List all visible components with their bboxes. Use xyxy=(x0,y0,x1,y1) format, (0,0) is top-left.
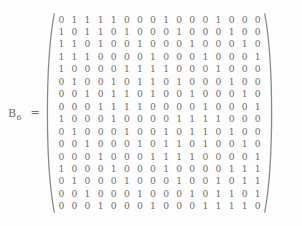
matrix-cell: 1 xyxy=(81,26,94,38)
matrix-cell: 1 xyxy=(225,188,238,200)
matrix-cell: 1 xyxy=(107,88,120,100)
matrix-cell: 0 xyxy=(133,151,146,163)
matrix-cell: 0 xyxy=(55,188,68,200)
matrix-cell: 1 xyxy=(120,88,133,100)
matrix-cell: 0 xyxy=(160,113,173,125)
matrix-cell: 0 xyxy=(225,138,238,150)
matrix-cell: 0 xyxy=(238,151,251,163)
matrix-cell: 0 xyxy=(251,13,264,26)
matrix-cell: 1 xyxy=(212,63,225,75)
matrix-cell: 0 xyxy=(225,88,238,100)
matrix-cell: 1 xyxy=(225,26,238,38)
matrix-cell: 0 xyxy=(251,63,264,75)
matrix-cell: 0 xyxy=(212,88,225,100)
matrix-cell: 0 xyxy=(251,126,264,138)
matrix-cell: 0 xyxy=(238,26,251,38)
matrix-row: 0001000111100001 xyxy=(55,151,265,163)
matrix-cell: 1 xyxy=(251,188,264,200)
matrix-cell: 1 xyxy=(225,163,238,175)
matrix-cell: 0 xyxy=(212,126,225,138)
matrix-cell: 1 xyxy=(238,163,251,175)
matrix-cell: 1 xyxy=(186,126,199,138)
matrix-cell: 0 xyxy=(225,113,238,125)
matrix-cell: 0 xyxy=(160,88,173,100)
matrix-cell: 0 xyxy=(55,13,68,26)
matrix-cell: 0 xyxy=(173,88,186,100)
matrix-cell: 0 xyxy=(173,13,186,26)
matrix-cell: 1 xyxy=(238,200,251,213)
matrix-cell: 1 xyxy=(160,126,173,138)
matrix-row: 0010110100100010 xyxy=(55,88,265,100)
matrix-cell: 1 xyxy=(173,26,186,38)
matrix-cell: 1 xyxy=(160,163,173,175)
matrix-cell: 0 xyxy=(186,175,199,187)
matrix-cell: 0 xyxy=(68,188,81,200)
matrix-cell: 1 xyxy=(160,138,173,150)
matrix-cell: 0 xyxy=(133,175,146,187)
matrix-cell: 0 xyxy=(199,151,212,163)
matrix-cell: 0 xyxy=(94,175,107,187)
matrix-cell: 1 xyxy=(107,163,120,175)
matrix-cell: 1 xyxy=(68,38,81,50)
matrix-cell: 0 xyxy=(120,188,133,200)
matrix-cell: 1 xyxy=(199,138,212,150)
matrix-cell: 0 xyxy=(238,188,251,200)
matrix-cell: 0 xyxy=(146,163,159,175)
matrix-cell: 0 xyxy=(94,63,107,75)
matrix-cell: 1 xyxy=(133,63,146,75)
matrix-cell: 0 xyxy=(186,51,199,63)
matrix-cell: 1 xyxy=(160,63,173,75)
matrix-cell: 1 xyxy=(186,38,199,50)
matrix-cell: 0 xyxy=(212,163,225,175)
matrix-cell: 0 xyxy=(94,76,107,88)
matrix-cell: 0 xyxy=(225,63,238,75)
matrix-cell: 1 xyxy=(186,88,199,100)
matrix-cell: 0 xyxy=(173,38,186,50)
matrix-cell: 1 xyxy=(68,13,81,26)
matrix-cell: 1 xyxy=(173,175,186,187)
matrix-cell: 0 xyxy=(160,188,173,200)
matrix-cell: 1 xyxy=(238,138,251,150)
matrix-cell: 1 xyxy=(212,175,225,187)
matrix-cell: 0 xyxy=(146,138,159,150)
matrix-cell: 0 xyxy=(133,113,146,125)
matrix-cell: 0 xyxy=(186,76,199,88)
left-paren-icon xyxy=(46,13,55,213)
matrix-cell: 0 xyxy=(238,51,251,63)
matrix-label-symbol: B xyxy=(8,107,16,120)
matrix-row: 1110000100010001 xyxy=(55,51,265,63)
matrix-row: 0100101101000100 xyxy=(55,76,265,88)
matrix-cell: 1 xyxy=(55,63,68,75)
matrix-cell: 1 xyxy=(160,151,173,163)
matrix-row: 0010001011010010 xyxy=(55,138,265,150)
matrix-cell: 1 xyxy=(55,38,68,50)
matrix-cell: 1 xyxy=(55,51,68,63)
matrix-cell: 0 xyxy=(107,175,120,187)
matrix-cell: 0 xyxy=(212,26,225,38)
matrix-cell: 1 xyxy=(199,101,212,113)
matrix-cell: 0 xyxy=(107,126,120,138)
matrix-cell: 0 xyxy=(55,175,68,187)
matrix-cell: 0 xyxy=(212,138,225,150)
matrix-cell: 0 xyxy=(107,51,120,63)
matrix-cell: 0 xyxy=(94,163,107,175)
matrix-cell: 0 xyxy=(120,151,133,163)
matrix-cell: 0 xyxy=(81,175,94,187)
matrix-cell: 1 xyxy=(55,163,68,175)
matrix-cell: 1 xyxy=(120,126,133,138)
matrix-cell: 1 xyxy=(186,188,199,200)
matrix-cell: 0 xyxy=(81,63,94,75)
matrix-container: 0111100010001000101101000100010011010010… xyxy=(46,13,274,213)
matrix-cell: 0 xyxy=(120,113,133,125)
matrix-cell: 0 xyxy=(186,26,199,38)
matrix-row: 1000011110001000 xyxy=(55,63,265,75)
matrix-cell: 1 xyxy=(120,63,133,75)
matrix-cell: 0 xyxy=(173,51,186,63)
matrix-cell: 0 xyxy=(160,175,173,187)
matrix-row: 0100010001001011 xyxy=(55,175,265,187)
matrix-label: B6 xyxy=(8,107,22,120)
matrix-cell: 1 xyxy=(133,38,146,50)
matrix-cell: 0 xyxy=(107,26,120,38)
matrix-cell: 0 xyxy=(133,200,146,213)
matrix-row: 0001111000010001 xyxy=(55,101,265,113)
